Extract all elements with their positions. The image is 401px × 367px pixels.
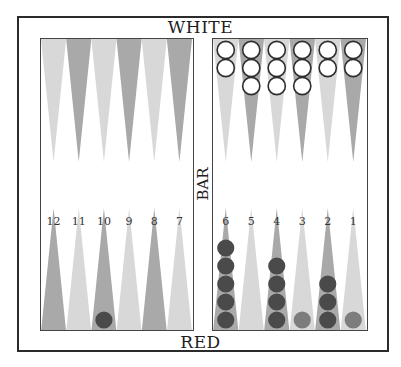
bar-label: BAR: [194, 167, 212, 200]
board-right-half: 654321: [212, 38, 368, 331]
right-points-svg: [213, 39, 368, 331]
red-checker[interactable]: [319, 293, 336, 310]
point-18[interactable]: [167, 39, 192, 162]
red-checker[interactable]: [319, 275, 336, 292]
white-checker[interactable]: [268, 77, 285, 94]
white-checker[interactable]: [319, 59, 336, 76]
red-checker-faded[interactable]: [345, 311, 362, 328]
red-checker[interactable]: [268, 311, 285, 328]
point-15[interactable]: [91, 39, 116, 162]
red-checker[interactable]: [217, 311, 234, 328]
red-checker[interactable]: [268, 275, 285, 292]
white-checker[interactable]: [243, 59, 260, 76]
point-number: 12: [41, 215, 66, 228]
red-checker[interactable]: [217, 293, 234, 310]
white-checker[interactable]: [268, 41, 285, 58]
white-checker[interactable]: [319, 41, 336, 58]
point-number: 6: [213, 215, 238, 228]
red-checker-faded[interactable]: [294, 311, 311, 328]
white-checker[interactable]: [217, 59, 234, 76]
point-16[interactable]: [117, 39, 142, 162]
white-checker[interactable]: [345, 59, 362, 76]
player-label-red: RED: [0, 332, 401, 352]
white-checker[interactable]: [243, 77, 260, 94]
white-checker[interactable]: [294, 59, 311, 76]
red-checker[interactable]: [319, 311, 336, 328]
red-checker[interactable]: [217, 239, 234, 256]
point-number: 11: [66, 215, 91, 228]
point-number: 5: [239, 215, 264, 228]
player-label-white: WHITE: [0, 17, 401, 37]
white-checker[interactable]: [345, 41, 362, 58]
point-number: 7: [167, 215, 192, 228]
white-checker[interactable]: [217, 41, 234, 58]
point-number: 4: [264, 215, 289, 228]
red-checker[interactable]: [217, 257, 234, 274]
white-checker[interactable]: [294, 77, 311, 94]
point-14[interactable]: [66, 39, 91, 162]
point-number: 9: [117, 215, 142, 228]
point-number: 1: [341, 215, 366, 228]
red-checker[interactable]: [268, 293, 285, 310]
red-checker[interactable]: [217, 275, 234, 292]
left-points-svg: [41, 39, 194, 331]
white-checker[interactable]: [294, 41, 311, 58]
point-number: 10: [91, 215, 116, 228]
point-13[interactable]: [41, 39, 66, 162]
point-number: 2: [315, 215, 340, 228]
white-checker[interactable]: [243, 41, 260, 58]
point-number: 3: [290, 215, 315, 228]
board-left-half: 121110987: [40, 38, 194, 331]
point-number: 8: [142, 215, 167, 228]
red-checker[interactable]: [268, 257, 285, 274]
point-17[interactable]: [142, 39, 167, 162]
white-checker[interactable]: [268, 59, 285, 76]
red-checker[interactable]: [95, 311, 112, 328]
